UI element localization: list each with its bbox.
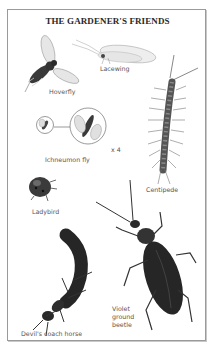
insect-illustrations: [8, 10, 207, 342]
label-lacewing: Lacewing: [100, 65, 130, 73]
label-centipede: Centipede: [146, 186, 178, 194]
violet-ground-beetle-icon: [96, 180, 196, 330]
illustration-frame: THE GARDENER'S FRIENDS: [7, 9, 206, 341]
lacewing-icon: [72, 40, 157, 66]
label-ladybird: Ladybird: [32, 208, 59, 216]
ladybird-icon: [29, 177, 57, 201]
label-hoverfly: Hoverfly: [49, 88, 75, 96]
hoverfly-icon: [25, 34, 81, 92]
centipede-icon: [148, 55, 198, 184]
label-ichneumon-fly: Ichneumon fly: [45, 156, 90, 164]
label-devils-coach-horse: Devil's coach horse: [21, 330, 82, 338]
ichneumon-fly-icon: [37, 108, 107, 144]
devils-coach-horse-icon: [33, 235, 92, 336]
label-magnification: x 4: [111, 146, 121, 154]
label-violet-ground-beetle: Violet ground beetle: [112, 305, 134, 329]
